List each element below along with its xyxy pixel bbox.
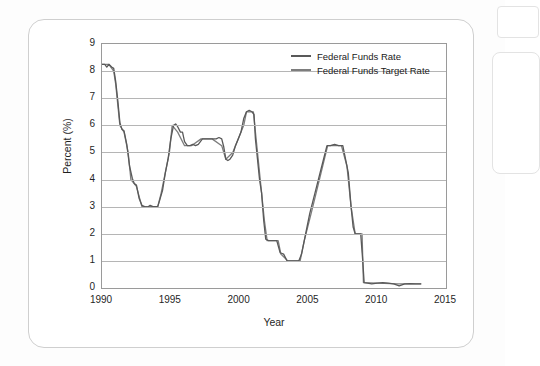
- gridline: [102, 98, 446, 99]
- y-axis-tick-label: 1: [73, 254, 95, 265]
- federal-funds-rate-chart: 0123456789 199019952000200520102015 Perc…: [29, 20, 473, 347]
- edge-panel-top: [497, 6, 539, 38]
- x-axis-tick-label: 2005: [287, 294, 327, 305]
- x-axis-title: Year: [101, 316, 447, 328]
- y-axis-tick-label: 7: [73, 91, 95, 102]
- y-axis-tick-label: 6: [73, 118, 95, 129]
- gridline: [102, 125, 446, 126]
- y-axis-tick-label: 3: [73, 200, 95, 211]
- gridline: [102, 234, 446, 235]
- legend-label: Federal Funds Rate: [317, 51, 401, 62]
- legend-item: Federal Funds Target Rate: [291, 64, 433, 76]
- chart-card: 0123456789 199019952000200520102015 Perc…: [28, 19, 474, 348]
- x-axis-tick-label: 1990: [81, 294, 121, 305]
- y-axis-tick-label: 5: [73, 145, 95, 156]
- gridline: [102, 152, 446, 153]
- edge-panel-middle: [492, 52, 540, 174]
- x-axis-tick-label: 2000: [219, 294, 259, 305]
- legend-label: Federal Funds Target Rate: [317, 65, 430, 76]
- chart-legend: Federal Funds RateFederal Funds Target R…: [287, 47, 437, 82]
- x-axis-tick-label: 1995: [150, 294, 190, 305]
- y-axis-tick-label: 0: [73, 281, 95, 292]
- y-axis-tick-label: 9: [73, 37, 95, 48]
- gridline: [102, 261, 446, 262]
- gridline: [102, 180, 446, 181]
- legend-item: Federal Funds Rate: [291, 50, 433, 62]
- y-axis-tick-label: 8: [73, 64, 95, 75]
- gridline: [102, 207, 446, 208]
- y-axis-title: Percent (%): [61, 86, 73, 206]
- x-axis-tick-label: 2010: [356, 294, 396, 305]
- y-axis-tick-label: 2: [73, 227, 95, 238]
- x-axis-tick-label: 2015: [425, 294, 465, 305]
- legend-color-swatch: [291, 55, 311, 57]
- legend-color-swatch: [291, 69, 311, 71]
- y-axis-tick-label: 4: [73, 173, 95, 184]
